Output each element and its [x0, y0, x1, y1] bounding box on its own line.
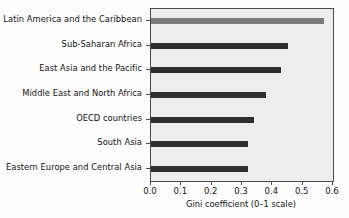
x-tick-label: 0.1 — [174, 186, 188, 197]
x-axis-tick-labels: 0.00.10.20.30.40.50.6 — [150, 186, 334, 198]
x-tick-label: 0.0 — [143, 186, 157, 197]
x-tick-label: 0.2 — [204, 186, 218, 197]
x-tick-mark — [150, 181, 151, 185]
bar — [151, 117, 254, 123]
bar — [151, 141, 248, 147]
category-label: Sub-Saharan Africa — [0, 40, 142, 49]
category-label: Eastern Europe and Central Asia — [0, 163, 142, 172]
category-label: South Asia — [0, 138, 142, 147]
x-tick-mark — [241, 181, 242, 185]
bar — [151, 18, 324, 24]
gini-coefficient-bar-chart: Latin America and the CaribbeanSub-Sahar… — [0, 0, 349, 218]
category-label: Middle East and North Africa — [0, 89, 142, 98]
plot-area — [150, 8, 334, 182]
category-label: OECD countries — [0, 114, 142, 123]
x-axis-title: Gini coefficient (0–1 scale) — [150, 199, 332, 210]
x-tick-mark — [180, 181, 181, 185]
x-tick-mark — [302, 181, 303, 185]
bar — [151, 92, 266, 98]
bar — [151, 67, 281, 73]
bar — [151, 43, 288, 49]
x-tick-mark — [271, 181, 272, 185]
x-tick-label: 0.5 — [295, 186, 309, 197]
bar — [151, 166, 248, 172]
category-label: East Asia and the Pacific — [0, 64, 142, 73]
x-tick-label: 0.6 — [325, 186, 339, 197]
x-tick-label: 0.3 — [234, 186, 248, 197]
y-axis-category-labels: Latin America and the CaribbeanSub-Sahar… — [0, 8, 146, 180]
category-label: Latin America and the Caribbean — [0, 15, 142, 24]
x-tick-mark — [332, 181, 333, 185]
x-tick-mark — [211, 181, 212, 185]
x-tick-label: 0.4 — [265, 186, 279, 197]
